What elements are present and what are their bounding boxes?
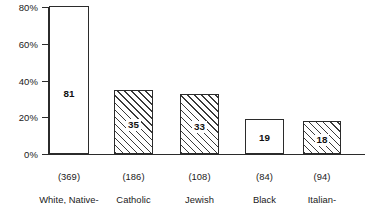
category-name-italian-american: Italian- American bbox=[286, 194, 358, 204]
category-name-catholic: Catholic bbox=[98, 194, 169, 204]
y-tick-mark-0 bbox=[42, 154, 48, 155]
x-axis-baseline bbox=[48, 154, 365, 155]
bar-value-black: 19 bbox=[246, 133, 283, 143]
x-category-label-italian-american: (94) Italian- American bbox=[286, 159, 358, 204]
y-tick-mark-80 bbox=[42, 7, 48, 8]
bar-white-native-born-protestant: 81 bbox=[49, 6, 89, 154]
bar-italian-american: 18 bbox=[303, 121, 341, 154]
sample-size-catholic: (186) bbox=[98, 171, 169, 183]
bar-value-jewish: 33 bbox=[181, 121, 218, 133]
y-tick-mark-40 bbox=[42, 81, 48, 82]
bar-value-white-native-born-protestant: 81 bbox=[50, 89, 88, 99]
y-tick-label-40: 40% bbox=[0, 76, 38, 87]
y-tick-mark-20 bbox=[42, 117, 48, 118]
category-name-jewish: Jewish bbox=[164, 194, 235, 204]
bar-black: 19 bbox=[245, 119, 284, 154]
x-category-label-catholic: (186) Catholic bbox=[98, 159, 169, 204]
bar-chart: 80% 60% 40% 20% 0% 81 35 33 19 18 (369) … bbox=[0, 0, 376, 204]
y-tick-label-60: 60% bbox=[0, 39, 38, 50]
y-tick-label-80: 80% bbox=[0, 2, 38, 13]
bar-value-italian-american: 18 bbox=[304, 134, 340, 146]
y-tick-label-20: 20% bbox=[0, 112, 38, 123]
y-tick-mark-60 bbox=[42, 44, 48, 45]
x-category-label-jewish: (108) Jewish bbox=[164, 159, 235, 204]
bar-value-catholic: 35 bbox=[115, 119, 152, 131]
bar-jewish: 33 bbox=[180, 94, 219, 154]
sample-size-jewish: (108) bbox=[164, 171, 235, 183]
sample-size-italian-american: (94) bbox=[286, 171, 358, 183]
bar-catholic: 35 bbox=[114, 90, 153, 154]
